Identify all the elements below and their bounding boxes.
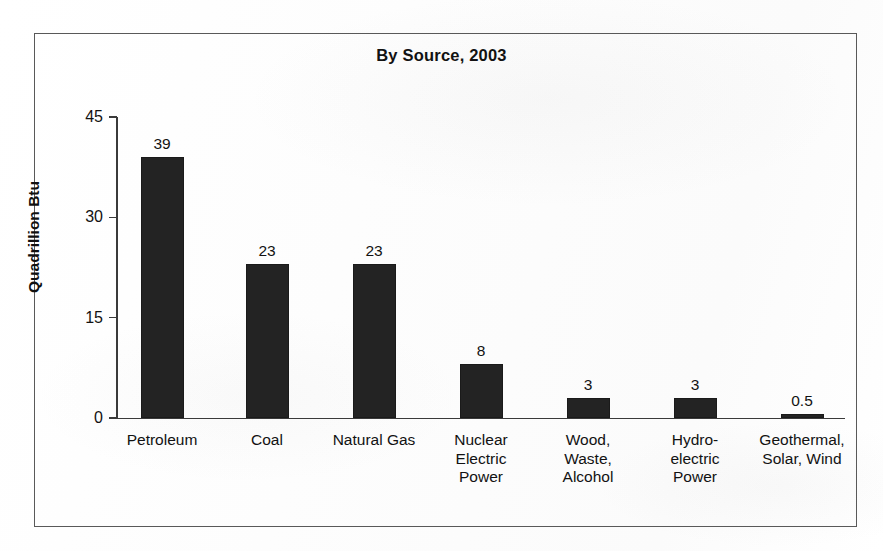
chart-title: By Source, 2003 (0, 46, 883, 65)
figure-border (34, 33, 857, 527)
y-axis-title: Quadrillion Btu (25, 157, 43, 317)
